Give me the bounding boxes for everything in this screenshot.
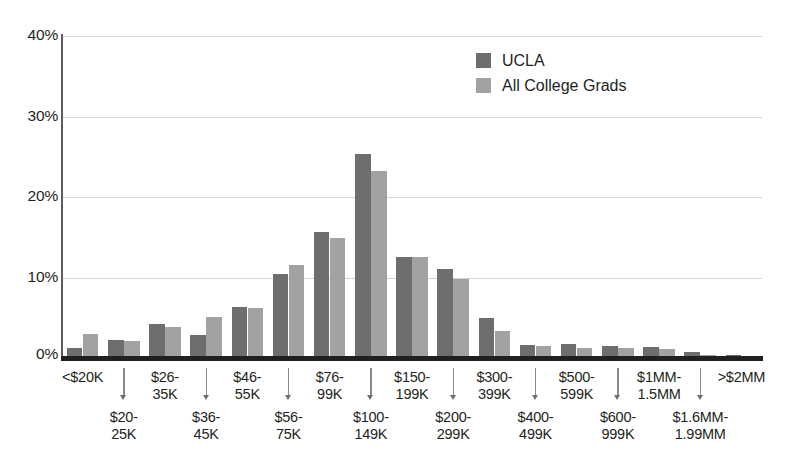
y-tick-40: 40%	[4, 26, 58, 44]
x-axis-baseline	[61, 356, 763, 361]
x-axis-label: $150- 199K	[367, 369, 457, 402]
bar-all-college-grads[interactable]	[248, 308, 264, 358]
bar-all-college-grads[interactable]	[495, 331, 511, 358]
x-axis-label: $100- 149K	[326, 409, 416, 442]
bar-all-college-grads[interactable]	[412, 257, 428, 358]
x-axis-label: $56- 75K	[243, 409, 333, 442]
bar-group	[268, 36, 309, 358]
bar-group	[433, 36, 474, 358]
bar-group	[62, 36, 103, 358]
legend-item-ucla: UCLA	[476, 48, 716, 73]
y-tick-30: 30%	[4, 107, 58, 125]
x-axis-label: $300- 399K	[449, 369, 539, 402]
bar-ucla[interactable]	[232, 307, 248, 358]
x-axis-tick-arrow-icon	[530, 368, 541, 402]
y-axis-labels: 40% 30% 20% 10% 0%	[0, 0, 58, 460]
legend-label-ucla: UCLA	[502, 52, 545, 70]
x-axis-label: $1.6MM- 1.99MM	[655, 409, 745, 442]
x-axis-tick-arrow-icon	[448, 368, 459, 402]
bar-ucla[interactable]	[355, 154, 371, 358]
bar-all-college-grads[interactable]	[165, 327, 181, 358]
bar-group	[350, 36, 391, 358]
bar-all-college-grads[interactable]	[83, 334, 99, 358]
x-axis-label: $200- 299K	[408, 409, 498, 442]
x-axis-label: $20- 25K	[79, 409, 169, 442]
bar-ucla[interactable]	[396, 257, 412, 358]
bar-group	[721, 36, 762, 358]
bar-group	[227, 36, 268, 358]
x-axis-label: $1MM- 1.5MM	[614, 369, 704, 402]
bar-ucla[interactable]	[149, 324, 165, 358]
bar-all-college-grads[interactable]	[453, 279, 469, 358]
x-axis-tick-arrow-icon	[201, 368, 212, 402]
legend-label-all-college-grads: All College Grads	[502, 77, 627, 95]
y-tick-20: 20%	[4, 187, 58, 205]
bar-all-college-grads[interactable]	[289, 265, 305, 358]
bar-all-college-grads[interactable]	[371, 171, 387, 358]
x-axis-label: $400- 499K	[491, 409, 581, 442]
legend-item-all-college-grads: All College Grads	[476, 73, 716, 98]
bar-group	[391, 36, 432, 358]
legend-swatch-icon-all-college-grads	[476, 78, 491, 93]
x-axis-tick-arrow-icon	[612, 368, 623, 402]
x-axis-label: $36- 45K	[161, 409, 251, 442]
bar-ucla[interactable]	[314, 232, 330, 358]
x-axis-label: $600- 999K	[573, 409, 663, 442]
x-axis-label: >$2MM	[696, 369, 786, 386]
x-axis-tick-arrow-icon	[695, 368, 706, 402]
x-axis-label: $26- 35K	[120, 369, 210, 402]
x-axis-tick-arrow-icon	[365, 368, 376, 402]
x-axis-label: $76- 99K	[285, 369, 375, 402]
x-axis-tick-arrow-icon	[283, 368, 294, 402]
bar-group	[144, 36, 185, 358]
x-axis-label: $500- 599K	[532, 369, 622, 402]
bar-ucla[interactable]	[273, 274, 289, 358]
y-tick-0: 0%	[4, 345, 58, 363]
bar-group	[186, 36, 227, 358]
bar-group	[309, 36, 350, 358]
bar-all-college-grads[interactable]	[330, 238, 346, 358]
x-axis-tick-arrow-icon	[118, 368, 129, 402]
x-axis-label: $46- 55K	[202, 369, 292, 402]
bar-group	[103, 36, 144, 358]
bar-ucla[interactable]	[190, 335, 206, 358]
income-distribution-bar-chart: 40% 30% 20% 10% 0% UCLA All College Grad…	[0, 0, 787, 460]
bar-all-college-grads[interactable]	[206, 317, 222, 358]
bar-ucla[interactable]	[437, 269, 453, 358]
legend-swatch-icon-ucla	[476, 53, 491, 68]
y-tick-10: 10%	[4, 268, 58, 286]
bar-ucla[interactable]	[479, 318, 495, 358]
chart-legend: UCLA All College Grads	[476, 48, 716, 98]
